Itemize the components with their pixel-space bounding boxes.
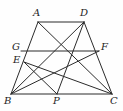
point-label-d: D xyxy=(80,8,88,18)
segment-diagonal-DB xyxy=(11,22,84,94)
point-label-b: B xyxy=(4,96,11,106)
segment-cevian-EP xyxy=(24,62,57,94)
point-label-a: A xyxy=(33,8,40,18)
segment-diagonal-AC xyxy=(38,22,112,94)
point-label-g: G xyxy=(12,42,20,52)
point-label-e: E xyxy=(13,55,20,65)
segment-cevian-DP xyxy=(57,22,84,94)
point-label-f: F xyxy=(101,42,108,52)
segment-cevian-EC xyxy=(24,62,112,94)
segment-side-DC-right xyxy=(84,22,112,94)
point-label-p: P xyxy=(53,96,60,106)
geometry-figure: ADGFEBPC xyxy=(0,0,123,111)
segments-group xyxy=(11,22,112,94)
point-label-c: C xyxy=(110,96,118,106)
